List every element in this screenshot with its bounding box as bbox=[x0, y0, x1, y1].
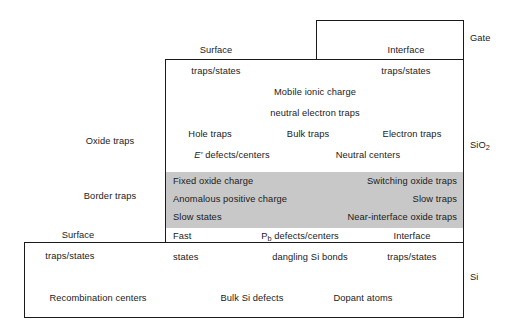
top-label-surface: Surface bbox=[200, 45, 233, 56]
left-label-surface: Surface bbox=[62, 230, 95, 241]
top-label-interface: Interface bbox=[387, 45, 424, 56]
interface-label-pb-defects: Pb defects/centers bbox=[261, 231, 339, 242]
interface-label-pb-rest: defects/centers bbox=[272, 231, 339, 241]
silicon-label-dopant-atoms: Dopant atoms bbox=[333, 293, 392, 304]
oxide-label-electron-traps: Electron traps bbox=[383, 129, 442, 140]
interface-label-dangling-si-bonds: dangling Si bonds bbox=[272, 252, 348, 263]
oxide-label-bulk-traps: Bulk traps bbox=[287, 129, 329, 140]
top-label-surface-traps-states: traps/states bbox=[191, 66, 240, 77]
left-label-surface-traps-states: traps/states bbox=[45, 251, 94, 262]
left-label-border-traps: Border traps bbox=[84, 191, 136, 202]
left-label-oxide-traps: Oxide traps bbox=[86, 136, 135, 147]
oxide-label-e-prime-symbol: E′ bbox=[194, 150, 202, 160]
interface-label-states: states bbox=[173, 252, 198, 263]
oxide-label-mobile-ionic-charge: Mobile ionic charge bbox=[274, 87, 356, 98]
border-label-switching-oxide-traps: Switching oxide traps bbox=[367, 176, 457, 187]
mos-defect-nomenclature-diagram: Gate SiO2 Si Oxide traps Border traps Su… bbox=[0, 0, 520, 335]
interface-label-traps-states: traps/states bbox=[387, 252, 436, 263]
border-label-fixed-oxide-charge: Fixed oxide charge bbox=[173, 176, 253, 187]
border-label-anomalous-positive-charge: Anomalous positive charge bbox=[173, 194, 287, 205]
oxide-label-hole-traps: Hole traps bbox=[188, 129, 231, 140]
region-label-sio2: SiO2 bbox=[470, 140, 490, 151]
region-label-si: Si bbox=[470, 272, 478, 283]
oxide-label-neutral-electron-traps: neutral electron traps bbox=[270, 108, 360, 119]
interface-label-fast: Fast bbox=[173, 231, 191, 242]
interface-label-interface: Interface bbox=[393, 231, 430, 242]
oxide-label-e-prime-defects: E′ defects/centers bbox=[194, 150, 269, 161]
border-label-slow-traps: Slow traps bbox=[413, 194, 457, 205]
left-label-recombination-centers: Recombination centers bbox=[49, 293, 146, 304]
border-label-near-interface-oxide-traps: Near-interface oxide traps bbox=[347, 212, 457, 223]
border-label-slow-states: Slow states bbox=[173, 212, 222, 223]
region-label-sio2-subscript: 2 bbox=[486, 143, 490, 152]
oxide-label-e-prime-rest: defects/centers bbox=[202, 150, 269, 160]
top-label-interface-traps-states: traps/states bbox=[381, 66, 430, 77]
region-label-sio2-text: SiO bbox=[470, 140, 486, 150]
silicon-label-bulk-si-defects: Bulk Si defects bbox=[221, 293, 284, 304]
region-label-gate: Gate bbox=[470, 33, 491, 44]
oxide-label-neutral-centers: Neutral centers bbox=[336, 150, 401, 161]
